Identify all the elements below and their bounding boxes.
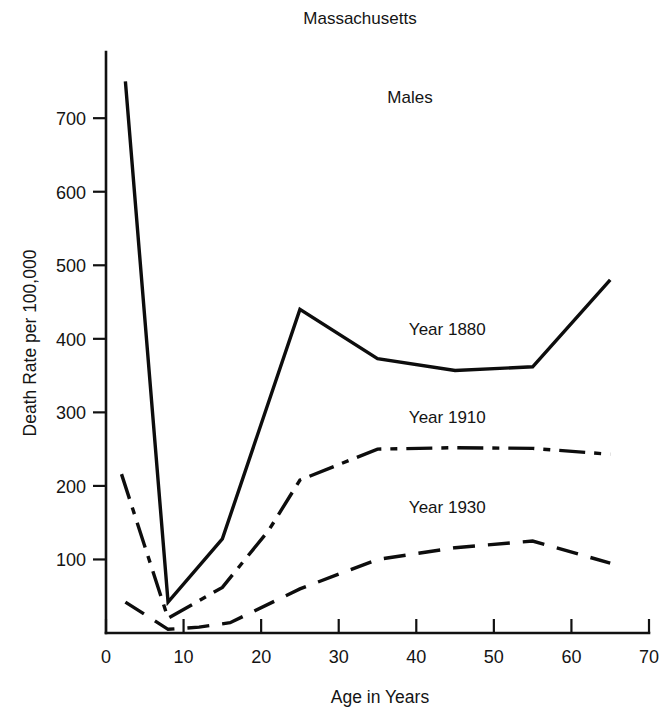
series-line-2: [122, 448, 611, 619]
x-tick-label: 10: [174, 647, 194, 667]
chart-title: Massachusetts: [303, 9, 416, 28]
y-axis-title: Death Rate per 100,000: [20, 249, 40, 436]
series-label-2: Year 1910: [409, 408, 486, 427]
x-axis-ticks: 010203040506070: [101, 619, 659, 667]
y-tick-label: 400: [56, 330, 86, 350]
x-tick-label: 70: [639, 647, 659, 667]
y-tick-label: 600: [56, 183, 86, 203]
y-tick-label: 100: [56, 550, 86, 570]
chart-figure: Massachusetts Males 10020030040050060070…: [0, 0, 672, 720]
y-tick-label: 500: [56, 256, 86, 276]
x-tick-label: 40: [406, 647, 426, 667]
y-axis-ticks: 100200300400500600700: [56, 109, 106, 570]
series-line-1: [125, 81, 610, 602]
series-group: [122, 81, 611, 629]
x-tick-label: 0: [101, 647, 111, 667]
y-tick-label: 700: [56, 109, 86, 129]
chart-subtitle: Males: [387, 88, 432, 107]
series-label-3: Year 1930: [409, 498, 486, 517]
series-labels-group: Year 1880Year 1910Year 1930: [409, 320, 486, 517]
y-tick-label: 300: [56, 403, 86, 423]
x-tick-label: 20: [251, 647, 271, 667]
y-tick-label: 200: [56, 477, 86, 497]
series-line-3: [125, 541, 610, 629]
line-chart-svg: Massachusetts Males 10020030040050060070…: [0, 0, 672, 720]
x-tick-label: 60: [561, 647, 581, 667]
series-label-1: Year 1880: [409, 320, 486, 339]
x-axis-title: Age in Years: [331, 687, 430, 707]
x-tick-label: 30: [329, 647, 349, 667]
x-tick-label: 50: [484, 647, 504, 667]
